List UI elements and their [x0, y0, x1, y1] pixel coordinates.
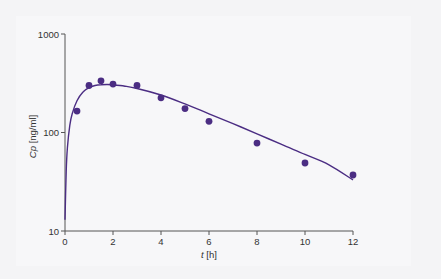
data-point — [74, 108, 81, 115]
pk-concentration-chart: 101001000024681012 t [h]Cp [ng/ml] — [0, 0, 441, 279]
data-point — [158, 94, 165, 101]
data-point — [86, 82, 93, 89]
data-point — [302, 160, 309, 167]
data-point — [350, 172, 357, 179]
x-tick-label: 4 — [158, 236, 163, 247]
x-tick-label: 10 — [300, 236, 311, 247]
y-tick-label: 1000 — [38, 29, 59, 40]
x-tick-label: 12 — [348, 236, 359, 247]
data-point — [134, 82, 141, 89]
x-tick-label: 6 — [206, 236, 211, 247]
x-axis-title: t [h] — [201, 249, 217, 260]
chart-container: 101001000024681012 t [h]Cp [ng/ml] — [0, 0, 441, 279]
data-point — [110, 81, 117, 88]
data-point — [206, 118, 213, 125]
y-axis-title: Cp [ng/ml] — [27, 115, 38, 158]
y-tick-label: 100 — [43, 127, 59, 138]
data-point — [182, 105, 189, 112]
x-tick-label: 8 — [254, 236, 259, 247]
data-point — [254, 140, 261, 147]
x-tick-label: 2 — [110, 236, 115, 247]
data-point — [98, 77, 105, 84]
y-tick-label: 10 — [48, 226, 59, 237]
x-tick-label: 0 — [62, 236, 67, 247]
figure-panel — [16, 16, 411, 266]
